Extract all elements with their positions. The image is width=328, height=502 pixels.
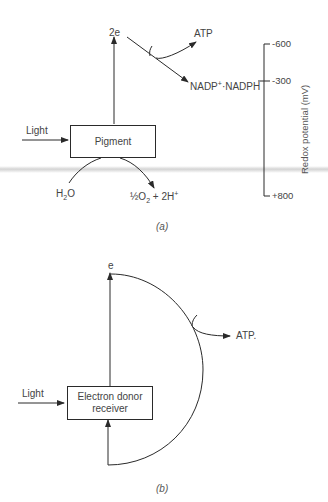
box-label-line2: receiver: [92, 403, 128, 415]
electron-donor-receiver-box: Electron donor receiver: [67, 386, 153, 420]
panel-a-lines: [22, 37, 270, 196]
nadp-label: NADP+·NADPH: [190, 78, 260, 93]
water-o: O: [67, 188, 75, 199]
atp-branch-arrow: [156, 42, 196, 58]
cyclic-return-arc: [108, 274, 203, 465]
electron-label-2e: 2e: [109, 27, 120, 39]
atp-branch-hook-b: [192, 315, 197, 326]
nadp-prefix: NADP: [190, 81, 218, 92]
electron-label-e: e: [108, 260, 114, 272]
light-label-a: Light: [26, 125, 48, 137]
atp-label-b: ATP.: [236, 330, 256, 342]
oxygen-output-arrow: [120, 158, 154, 188]
nadp-suffix: ·NADPH: [222, 81, 260, 92]
atp-branch-arrow-b: [193, 327, 230, 336]
plus-protons: + 2H: [150, 191, 174, 202]
oxygen-proton-label: ½O2 + 2H+: [130, 188, 178, 207]
diagram-canvas: 2e ATP NADP+·NADPH Light Pigment H2O ½O2…: [0, 0, 328, 502]
light-label-b: Light: [22, 388, 44, 400]
water-input-curve: [69, 158, 101, 183]
proton-sup: +: [174, 190, 178, 197]
nadph-arrow: [127, 37, 188, 82]
atp-label-a: ATP: [194, 28, 213, 40]
panel-b-lines: [18, 273, 230, 465]
pigment-label: Pigment: [95, 136, 132, 148]
redox-tick-label-300: -300: [272, 75, 291, 87]
oxygen-o: O: [138, 191, 146, 202]
redox-tick-label-800: +800: [272, 190, 293, 202]
water-label: H2O: [56, 188, 75, 204]
box-label-line1: Electron donor: [77, 391, 142, 403]
redox-axis-title: Redox potential (mV): [299, 85, 310, 174]
caption-b: (b): [156, 483, 168, 494]
caption-a: (a): [156, 221, 168, 232]
redox-tick-label-600: -600: [272, 38, 291, 50]
pigment-box: Pigment: [70, 125, 156, 158]
